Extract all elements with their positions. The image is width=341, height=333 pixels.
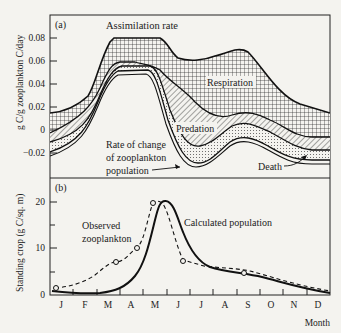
zooplankton-chart: (a) Assimilation rate Respiration Predat… bbox=[0, 0, 341, 333]
arrowhead-icon bbox=[175, 164, 180, 169]
observed-label-line1: Observed bbox=[82, 220, 120, 231]
month-label: A bbox=[222, 300, 229, 310]
rate-label-line3: population bbox=[106, 165, 149, 176]
ytick-label: 0.02 bbox=[28, 102, 45, 112]
data-point-marker bbox=[242, 271, 247, 276]
month-label: O bbox=[268, 300, 275, 310]
month-label: N bbox=[291, 300, 298, 310]
x-axis-label: Month bbox=[305, 318, 331, 328]
panel-b-label: (b) bbox=[55, 182, 67, 194]
panel-a-label: (a) bbox=[55, 19, 66, 31]
month-label: J bbox=[59, 300, 63, 310]
data-point-marker bbox=[135, 246, 140, 251]
month-label: J bbox=[199, 300, 203, 310]
y-axis-label-a: g C/g zooplankton C/day bbox=[15, 34, 25, 130]
month-label: F bbox=[82, 300, 87, 310]
panel-a-plot bbox=[50, 38, 330, 167]
observed-zooplankton-line bbox=[55, 201, 330, 291]
month-label: J bbox=[176, 300, 180, 310]
ytick-label: 0 bbox=[40, 125, 45, 135]
ytick-label: 10 bbox=[36, 243, 46, 253]
month-label: D bbox=[315, 300, 322, 310]
ytick-label: 0.04 bbox=[28, 79, 45, 89]
observed-label-line2: zooplankton bbox=[82, 233, 131, 244]
month-label: M bbox=[151, 300, 160, 310]
month-label: M bbox=[104, 300, 113, 310]
data-point-marker bbox=[54, 286, 59, 291]
predation-label: Predation bbox=[176, 123, 214, 134]
y-axis-b: 20 10 0 bbox=[36, 197, 58, 300]
data-point-marker bbox=[114, 260, 119, 265]
death-label: Death bbox=[258, 161, 282, 172]
ytick-label: 0.08 bbox=[28, 33, 45, 43]
ytick-label: −0.02 bbox=[23, 148, 45, 158]
month-label: S bbox=[245, 300, 250, 310]
calculated-population-line bbox=[52, 201, 330, 293]
ytick-label: 20 bbox=[36, 197, 46, 207]
calculated-label: Calculated population bbox=[184, 217, 272, 228]
assimilation-label: Assimilation rate bbox=[106, 20, 178, 31]
rate-label-line2: of zooplankton bbox=[106, 152, 166, 163]
ytick-label: 0.06 bbox=[28, 56, 45, 66]
rate-label-line1: Rate of change bbox=[106, 139, 167, 150]
ytick-label: 0 bbox=[40, 290, 45, 300]
respiration-label: Respiration bbox=[207, 77, 253, 88]
x-axis-labels: J F M A M J J A S O N D bbox=[59, 300, 321, 310]
month-label: A bbox=[128, 300, 135, 310]
data-point-marker bbox=[151, 201, 156, 206]
y-axis-label-b: Standing crop (g C/sq. m) bbox=[15, 194, 26, 292]
data-point-marker bbox=[181, 259, 186, 264]
